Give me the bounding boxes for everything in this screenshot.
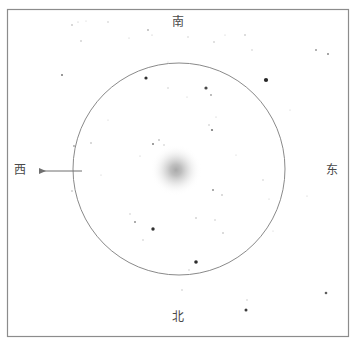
star-point xyxy=(152,143,154,145)
star-point xyxy=(272,230,273,231)
star-point xyxy=(167,61,168,62)
star-point xyxy=(142,239,143,240)
star-point xyxy=(151,227,154,230)
star-point xyxy=(71,190,73,192)
star-point xyxy=(327,53,329,55)
star-point xyxy=(221,194,223,196)
star-point xyxy=(139,155,140,156)
star-point xyxy=(167,87,168,88)
star-point xyxy=(215,116,216,117)
sketch-canvas xyxy=(0,0,355,341)
astronomy-sketch-figure: 南 北 西 东 xyxy=(0,0,355,341)
star-point xyxy=(213,41,215,43)
star-point xyxy=(186,96,187,97)
star-point xyxy=(208,124,209,125)
star-point xyxy=(212,189,214,191)
star-point xyxy=(194,260,198,264)
star-point xyxy=(251,49,252,50)
star-point xyxy=(244,34,246,36)
star-point xyxy=(211,129,213,131)
star-point xyxy=(147,29,149,31)
star-point xyxy=(181,289,182,290)
star-point xyxy=(107,119,108,120)
star-point xyxy=(144,76,147,79)
star-point xyxy=(268,198,269,199)
star-point xyxy=(246,299,247,300)
star-point xyxy=(129,213,130,214)
star-point xyxy=(187,36,188,37)
direction-label-south: 南 xyxy=(0,16,355,28)
star-point xyxy=(73,145,75,147)
star-point xyxy=(264,78,268,82)
star-point xyxy=(289,109,290,110)
diffuse-nebulosity xyxy=(150,144,202,196)
star-point xyxy=(262,179,263,180)
star-point xyxy=(210,94,212,96)
star-point xyxy=(235,154,236,155)
star-point xyxy=(80,40,82,42)
star-point xyxy=(325,292,328,295)
star-point xyxy=(134,221,136,223)
direction-label-east: 东 xyxy=(326,164,338,176)
star-point xyxy=(90,142,92,144)
star-point xyxy=(214,219,215,220)
star-point xyxy=(158,139,160,141)
star-point xyxy=(188,269,189,270)
star-point xyxy=(151,34,152,35)
direction-label-west: 西 xyxy=(14,164,26,176)
star-point xyxy=(204,86,207,89)
star-point xyxy=(100,174,101,175)
star-point xyxy=(315,49,317,51)
star-point xyxy=(128,37,129,38)
star-point xyxy=(163,144,164,145)
star-point xyxy=(61,74,63,76)
star-point xyxy=(306,195,307,196)
direction-label-north: 北 xyxy=(0,311,355,323)
star-point xyxy=(222,232,224,234)
star-point xyxy=(195,217,197,219)
star-point xyxy=(224,34,225,35)
